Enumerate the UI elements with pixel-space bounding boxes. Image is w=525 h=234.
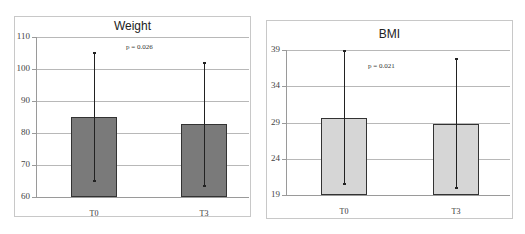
x-tick-label: T0 — [74, 209, 114, 218]
gridline — [286, 50, 510, 51]
y-tick-label: 29 — [254, 117, 280, 127]
gridline — [36, 101, 249, 102]
error-cap-top — [455, 58, 458, 60]
y-axis-line — [286, 50, 287, 195]
p-value-annotation: p = 0.021 — [368, 62, 395, 70]
y-tick-label: 110 — [4, 31, 30, 41]
error-cap-bottom — [343, 183, 346, 185]
x-axis-line — [36, 197, 249, 198]
error-cap-top — [93, 52, 96, 54]
error-cap-top — [203, 62, 206, 64]
plot-area: 60708090100110T0T3p = 0.026 — [36, 37, 249, 197]
error-cap-bottom — [455, 187, 458, 189]
y-tick-label: 34 — [254, 80, 280, 90]
y-tick-label: 90 — [4, 95, 30, 105]
chart-title: Weight — [15, 19, 250, 33]
error-bar — [344, 51, 345, 184]
plot-area: 1924293439T0T3p = 0.021 — [286, 50, 510, 195]
y-tick-label: 70 — [4, 159, 30, 169]
gridline — [286, 86, 510, 87]
x-tick-label: T3 — [184, 209, 224, 218]
y-tick-label: 80 — [4, 127, 30, 137]
x-tick-label: T0 — [324, 207, 364, 216]
y-tick-label: 39 — [254, 44, 280, 54]
error-cap-top — [343, 50, 346, 52]
error-bar — [204, 63, 205, 187]
bmi-chart-panel: BMI 1924293439T0T3p = 0.021 — [266, 20, 513, 219]
error-bar — [456, 59, 457, 189]
x-axis-line — [286, 195, 510, 196]
y-tick-label: 60 — [4, 191, 30, 201]
error-bar — [94, 53, 95, 181]
weight-chart-panel: Weight 60708090100110T0T3p = 0.026 — [14, 16, 251, 217]
p-value-annotation: p = 0.026 — [126, 43, 153, 51]
gridline — [36, 69, 249, 70]
gridline — [36, 37, 249, 38]
y-axis-line — [36, 37, 37, 197]
x-tick-label: T3 — [436, 207, 476, 216]
error-cap-bottom — [203, 185, 206, 187]
error-cap-bottom — [93, 180, 96, 182]
y-tick-label: 19 — [254, 189, 280, 199]
y-tick-label: 24 — [254, 153, 280, 163]
chart-title: BMI — [267, 27, 512, 41]
y-tick-label: 100 — [4, 63, 30, 73]
